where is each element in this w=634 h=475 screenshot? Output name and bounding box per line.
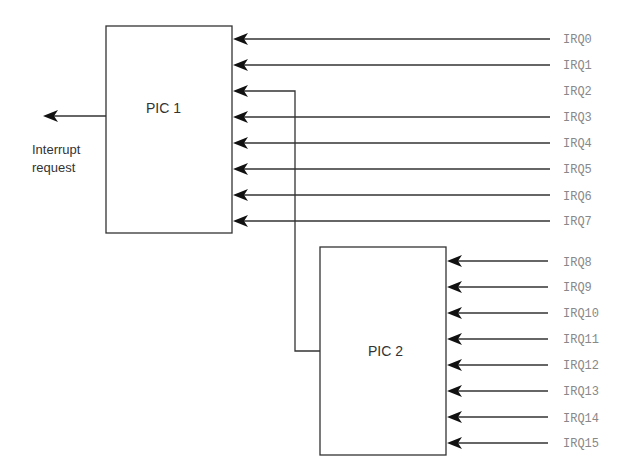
irq0-label: IRQ0 — [563, 33, 592, 47]
irq13-label: IRQ13 — [563, 385, 599, 399]
interrupt-label-line2: request — [32, 160, 76, 175]
pic-cascade-diagram: PIC 1 Interrupt request IRQ0 IRQ1 IRQ2 I… — [0, 0, 634, 475]
pic1-box — [106, 26, 232, 233]
irq6-label: IRQ6 — [563, 190, 592, 204]
irq8-label: IRQ8 — [563, 256, 592, 270]
irq2-label: IRQ2 — [563, 85, 592, 99]
irq15-label: IRQ15 — [563, 437, 599, 451]
irq12-label: IRQ12 — [563, 359, 599, 373]
pic2-inputs: IRQ8 IRQ9 IRQ10 IRQ11 IRQ12 IRQ13 IRQ14 … — [447, 255, 599, 451]
irq10-label: IRQ10 — [563, 307, 599, 321]
irq4-label: IRQ4 — [563, 137, 592, 151]
irq7-label: IRQ7 — [563, 215, 592, 229]
irq5-label: IRQ5 — [563, 163, 592, 177]
irq11-label: IRQ11 — [563, 333, 599, 347]
irq3-label: IRQ3 — [563, 111, 592, 125]
pic2-label: PIC 2 — [368, 343, 403, 359]
irq1-label: IRQ1 — [563, 59, 592, 73]
irq9-label: IRQ9 — [563, 281, 592, 295]
irq14-label: IRQ14 — [563, 412, 599, 426]
interrupt-label-line1: Interrupt — [32, 142, 81, 157]
pic1-label: PIC 1 — [146, 100, 181, 116]
